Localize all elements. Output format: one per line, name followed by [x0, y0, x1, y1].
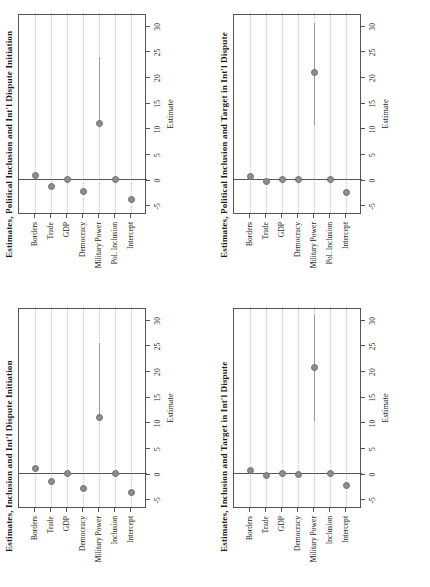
estimate-point[interactable] [32, 172, 39, 179]
estimate-point[interactable] [343, 482, 350, 489]
category-tick [98, 508, 99, 512]
estimate-point[interactable] [80, 485, 87, 492]
category-tick [345, 214, 346, 218]
plot-area [233, 14, 361, 214]
estimate-point[interactable] [279, 176, 286, 183]
estimate-point[interactable] [128, 489, 135, 496]
category-label: Borders [245, 222, 254, 282]
estimate-tick-label: 30 [368, 317, 377, 325]
estimate-tick [361, 474, 365, 475]
gridline [346, 13, 347, 213]
category-label: Intercept [126, 222, 135, 282]
gridline [131, 307, 132, 507]
estimate-point[interactable] [64, 176, 71, 183]
category-tick [249, 508, 250, 512]
estimate-tick-label: 0 [153, 473, 162, 477]
figure-canvas: Estimates, Political Inclusion and Int'l… [0, 0, 430, 587]
estimate-tick-label: 5 [153, 447, 162, 451]
category-tick [50, 214, 51, 218]
estimate-point[interactable] [327, 176, 334, 183]
estimate-tick-label: 30 [153, 23, 162, 31]
category-label: Democracy [78, 516, 87, 576]
estimate-point[interactable] [64, 470, 71, 477]
estimate-point[interactable] [32, 465, 39, 472]
category-label: Democracy [78, 222, 87, 282]
estimate-tick [361, 51, 365, 52]
estimate-tick-label: 30 [368, 23, 377, 31]
estimate-point[interactable] [112, 176, 119, 183]
estimate-tick-label: 15 [153, 100, 162, 108]
estimate-point[interactable] [327, 470, 334, 477]
estimate-tick-label: 20 [153, 368, 162, 376]
confidence-interval-bar [99, 57, 100, 124]
estimate-tick-label: -5 [368, 203, 377, 209]
chart-title: Estimates, Inclusion and Target in Int'l… [215, 300, 232, 552]
estimate-point[interactable] [311, 70, 318, 77]
category-label: GDP [277, 516, 286, 576]
estimate-point[interactable] [247, 467, 254, 474]
estimate-tick [146, 397, 150, 398]
estimate-tick-label: 5 [153, 153, 162, 157]
category-tick [281, 214, 282, 218]
estimate-tick [146, 26, 150, 27]
estimate-point[interactable] [295, 471, 302, 478]
estimate-point[interactable] [263, 472, 270, 479]
category-tick [50, 508, 51, 512]
estimate-point[interactable] [279, 470, 286, 477]
estimate-point[interactable] [311, 364, 318, 371]
estimate-tick-label: 5 [368, 447, 377, 451]
estimate-tick [361, 397, 365, 398]
category-tick [130, 508, 131, 512]
estimate-point[interactable] [80, 188, 87, 195]
estimate-point[interactable] [263, 178, 270, 185]
estimate-tick-label: 25 [153, 49, 162, 57]
gridline [83, 13, 84, 213]
category-tick [329, 214, 330, 218]
category-tick [82, 508, 83, 512]
estimate-point[interactable] [343, 190, 350, 197]
estimate-tick [361, 26, 365, 27]
estimate-tick [361, 422, 365, 423]
estimate-tick [146, 499, 150, 500]
rotated-chart-container: Estimates, Inclusion and Int'l Dispute I… [0, 300, 196, 552]
category-label: Military Power [94, 222, 103, 282]
estimate-tick [361, 128, 365, 129]
estimate-point[interactable] [48, 478, 55, 485]
estimate-point[interactable] [247, 173, 254, 180]
chart-title: Estimates, Political Inclusion and Targe… [215, 6, 232, 258]
estimate-tick-label: 25 [368, 343, 377, 351]
category-tick [313, 214, 314, 218]
estimate-point[interactable] [128, 196, 135, 203]
estimate-point[interactable] [48, 183, 55, 190]
category-tick [34, 508, 35, 512]
category-tick [114, 214, 115, 218]
category-label: Borders [30, 516, 39, 576]
category-label: Trade [46, 516, 55, 576]
chart-title: Estimates, Political Inclusion and Int'l… [0, 6, 17, 258]
estimate-tick-label: 5 [368, 153, 377, 157]
category-label: Trade [46, 222, 55, 282]
estimate-tick-label: 15 [368, 394, 377, 402]
category-tick [98, 214, 99, 218]
estimate-tick [146, 180, 150, 181]
estimate-tick-label: -5 [153, 203, 162, 209]
estimate-point[interactable] [112, 470, 119, 477]
estimate-tick-label: 20 [368, 368, 377, 376]
estimate-tick-label: 0 [368, 473, 377, 477]
gridline [83, 307, 84, 507]
estimate-tick [146, 345, 150, 346]
estimate-tick-label: 15 [153, 394, 162, 402]
category-tick [297, 214, 298, 218]
estimate-point[interactable] [295, 176, 302, 183]
estimate-tick [146, 422, 150, 423]
estimate-tick [361, 499, 365, 500]
estimate-axis-title: Estimate [381, 393, 390, 422]
estimate-point[interactable] [96, 120, 103, 127]
estimate-tick-label: 0 [153, 179, 162, 183]
estimate-tick-label: -5 [153, 497, 162, 503]
category-label: Democracy [293, 516, 302, 576]
category-label: Intercept [341, 222, 350, 282]
estimate-point[interactable] [96, 414, 103, 421]
estimate-tick-label: 30 [153, 317, 162, 325]
category-label: Trade [261, 516, 270, 576]
